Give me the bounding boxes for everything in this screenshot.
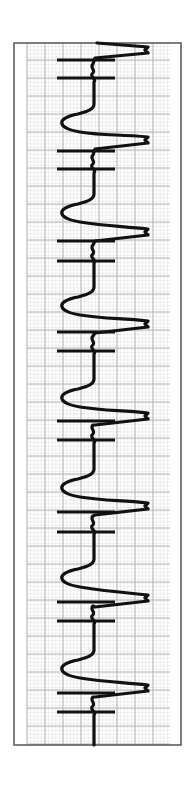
ecg-strip bbox=[0, 0, 193, 793]
